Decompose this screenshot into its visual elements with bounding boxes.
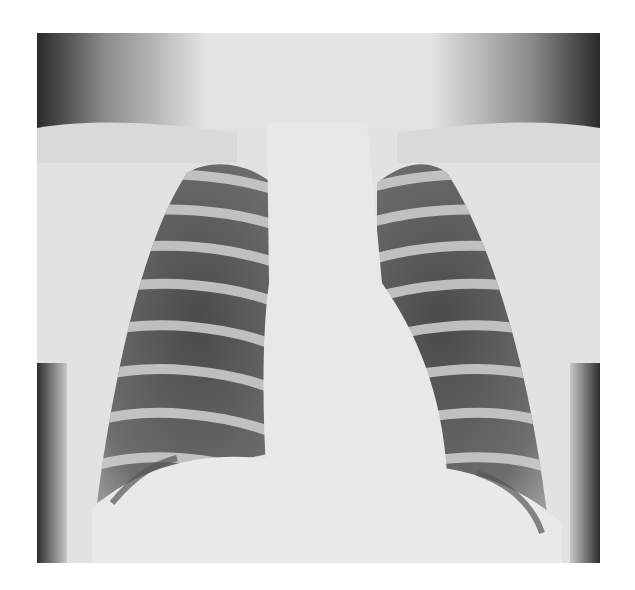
right-side-air xyxy=(570,363,600,563)
left-side-air xyxy=(37,363,67,563)
neck-region xyxy=(37,33,600,128)
xray-drawing xyxy=(37,33,600,563)
chest-xray-image xyxy=(37,33,600,563)
